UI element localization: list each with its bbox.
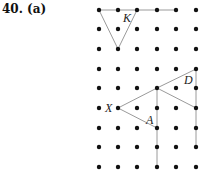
grid-dot xyxy=(97,165,101,169)
line-segment xyxy=(118,88,157,108)
grid-dot xyxy=(174,106,178,110)
grid-dot xyxy=(135,165,139,169)
point-label-x: X xyxy=(104,101,113,115)
grid-dot xyxy=(155,145,159,149)
grid-dot xyxy=(155,47,159,51)
grid-dot xyxy=(116,106,120,110)
grid-dot xyxy=(97,106,101,110)
grid-dot xyxy=(116,27,120,31)
grid-dot xyxy=(155,86,159,90)
point-label-a: A xyxy=(145,113,154,127)
grid-dot xyxy=(135,126,139,130)
grid-dot xyxy=(97,145,101,149)
grid-dot xyxy=(155,67,159,71)
grid-dot xyxy=(194,126,198,130)
grid-dot xyxy=(174,27,178,31)
grid-dot xyxy=(174,67,178,71)
grid-dot xyxy=(135,106,139,110)
grid-dot xyxy=(174,47,178,51)
grid-dot xyxy=(155,27,159,31)
grid-dot xyxy=(155,106,159,110)
grid-dot xyxy=(194,47,198,51)
grid-dot xyxy=(174,86,178,90)
grid-dot xyxy=(116,145,120,149)
grid-dot xyxy=(174,145,178,149)
grid-dot xyxy=(116,165,120,169)
grid-dot xyxy=(194,86,198,90)
grid-dot xyxy=(97,27,101,31)
dot-grid-diagram: KDXA xyxy=(0,0,206,176)
line-segment xyxy=(99,10,118,49)
grid-dot xyxy=(116,47,120,51)
grid-dot xyxy=(194,165,198,169)
point-label-d: D xyxy=(183,73,193,87)
grid-dot xyxy=(97,86,101,90)
line-segment xyxy=(157,88,196,108)
grid-dot xyxy=(155,126,159,130)
grid-dot xyxy=(194,145,198,149)
line-segments xyxy=(99,10,196,167)
grid-dot xyxy=(116,126,120,130)
grid-dot xyxy=(135,47,139,51)
grid-dot xyxy=(155,8,159,12)
grid-dot xyxy=(135,86,139,90)
grid-dot xyxy=(194,27,198,31)
grid-dot xyxy=(135,67,139,71)
grid-dot xyxy=(194,67,198,71)
grid-dot xyxy=(116,8,120,12)
grid-dot xyxy=(135,27,139,31)
grid-dot xyxy=(194,8,198,12)
grid-dot xyxy=(194,106,198,110)
grid-dot xyxy=(97,47,101,51)
grid-dot xyxy=(174,126,178,130)
grid-dot xyxy=(174,165,178,169)
grid-dot xyxy=(97,8,101,12)
grid-dot xyxy=(97,126,101,130)
point-label-k: K xyxy=(122,11,132,25)
grid-dots xyxy=(97,8,198,169)
grid-dot xyxy=(116,86,120,90)
grid-dot xyxy=(97,67,101,71)
grid-dot xyxy=(155,165,159,169)
grid-dot xyxy=(174,8,178,12)
grid-dot xyxy=(135,145,139,149)
grid-dot xyxy=(116,67,120,71)
grid-dot xyxy=(135,8,139,12)
